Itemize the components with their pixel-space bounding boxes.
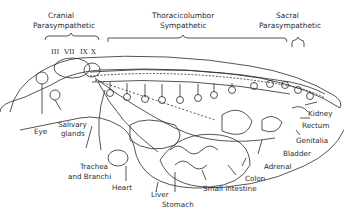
label-trachea-1: Trachea bbox=[80, 163, 108, 170]
bladder-shape bbox=[262, 116, 282, 131]
label-genitalia: Genitalia bbox=[296, 137, 328, 144]
label-eye: Eye bbox=[34, 128, 47, 135]
label-kidney: Kidney bbox=[308, 110, 333, 117]
label-salivary-1: Salivary bbox=[58, 121, 87, 128]
autonomic-nervous-system-diagram: III VII IX X Cranial Parasympathetic Tho… bbox=[0, 0, 344, 217]
label-trachea-2: and Branchi bbox=[68, 173, 111, 180]
sacral-header-line1: Sacral bbox=[276, 12, 299, 19]
cn-vii: VII bbox=[63, 48, 75, 56]
thoracolumbar-header-line1: Thoracicolumbor bbox=[152, 12, 214, 19]
thoracolumbar-header-line2: Sympathetic bbox=[160, 22, 207, 29]
colon-shape bbox=[222, 110, 252, 134]
label-rectum: Rectum bbox=[302, 122, 329, 129]
cranial-header-line2: Parasympathetic bbox=[33, 22, 95, 29]
label-small-intestine: Small intestine bbox=[203, 185, 257, 192]
rectum-shape bbox=[292, 107, 308, 112]
sacral-header-line2: Parasympathetic bbox=[259, 22, 321, 29]
cranial-header-line1: Cranial bbox=[48, 12, 74, 19]
cn-x: X bbox=[91, 48, 96, 56]
cn-ix: IX bbox=[80, 48, 88, 56]
label-salivary-2: glands bbox=[61, 130, 85, 137]
heart-shape bbox=[108, 150, 128, 166]
label-colon: Colon bbox=[245, 175, 265, 182]
sacral-brace bbox=[292, 37, 304, 47]
thoracolumbar-brace bbox=[108, 35, 287, 42]
sympathetic-ganglia bbox=[107, 81, 314, 104]
label-bladder: Bladder bbox=[283, 150, 311, 157]
cranial-nerve-numerals: III VII IX X bbox=[51, 48, 96, 56]
label-liver: Liver bbox=[151, 191, 169, 198]
cranial-brace bbox=[45, 33, 99, 40]
label-adrenal: Adrenal bbox=[264, 163, 292, 170]
label-heart: Heart bbox=[112, 184, 132, 191]
body-outline-drawing: III VII IX X bbox=[0, 0, 344, 217]
cn-iii: III bbox=[51, 48, 60, 56]
label-stomach: Stomach bbox=[162, 201, 194, 208]
intestine-shape bbox=[160, 134, 250, 187]
